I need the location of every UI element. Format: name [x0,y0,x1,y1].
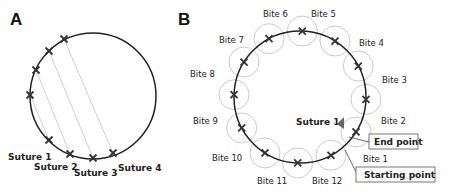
suture-marker-icon [90,155,97,162]
suture-3-line [49,51,93,158]
starting-point-leader [345,150,356,172]
bite-6-label: Bite 6 [263,9,288,19]
bite-marker-icon [355,63,362,70]
panel-b-label: B [178,10,190,29]
panel-a: A Suture 1 Suture 2 Suture 3 Suture 4 [8,10,162,178]
bite-marker-icon [352,128,359,135]
suture-2-line [36,70,70,154]
suture-marker-icon [46,48,53,55]
bite-12-label: Bite 12 [312,176,342,186]
bite-markers [231,28,370,167]
panel-b: B Bite 1 Bite 2 Bite 3 Bite 4 Bite 5 Bit… [178,9,436,186]
bite-11-label: Bite 11 [257,176,287,186]
suture-1-line [30,95,49,140]
bite-2-label: Bite 2 [381,116,406,126]
bite-8-label: Bite 8 [190,69,215,79]
wound-circle-b [234,31,366,163]
suture-4-line [64,39,113,153]
bite-3-label: Bite 3 [382,75,407,85]
bite-9-label: Bite 9 [193,116,218,126]
bite-marker-icon [262,149,269,156]
starting-point-label: Starting point [364,170,436,180]
suture-2-label: Suture 2 [34,162,78,172]
suture-marker-icon [46,137,53,144]
bite-7-label: Bite 7 [219,35,244,45]
bite-4-label: Bite 4 [359,38,384,48]
end-point-leader [349,137,369,142]
bite-1-label: Bite 1 [363,154,388,164]
end-point-label: End point [374,137,423,147]
suture-3-label: Suture 3 [74,168,118,178]
suture-lines [30,39,113,158]
bite-marker-icon [238,124,245,131]
bite-5-label: Bite 5 [311,9,336,19]
suture-1-label-b: Suture 1 [296,117,340,127]
suture-1-label: Suture 1 [8,152,52,162]
bite-marker-icon [266,35,273,42]
bite-10-label: Bite 10 [212,153,242,163]
suture-markers-a [27,36,117,162]
bite-marker-icon [241,59,248,66]
panel-a-label: A [10,10,22,29]
bite-marker-icon [327,152,334,159]
bite-marker-icon [331,38,338,45]
suture-4-label: Suture 4 [118,163,162,173]
diagram-canvas: A Suture 1 Suture 2 Suture 3 Suture 4 B … [0,0,449,193]
